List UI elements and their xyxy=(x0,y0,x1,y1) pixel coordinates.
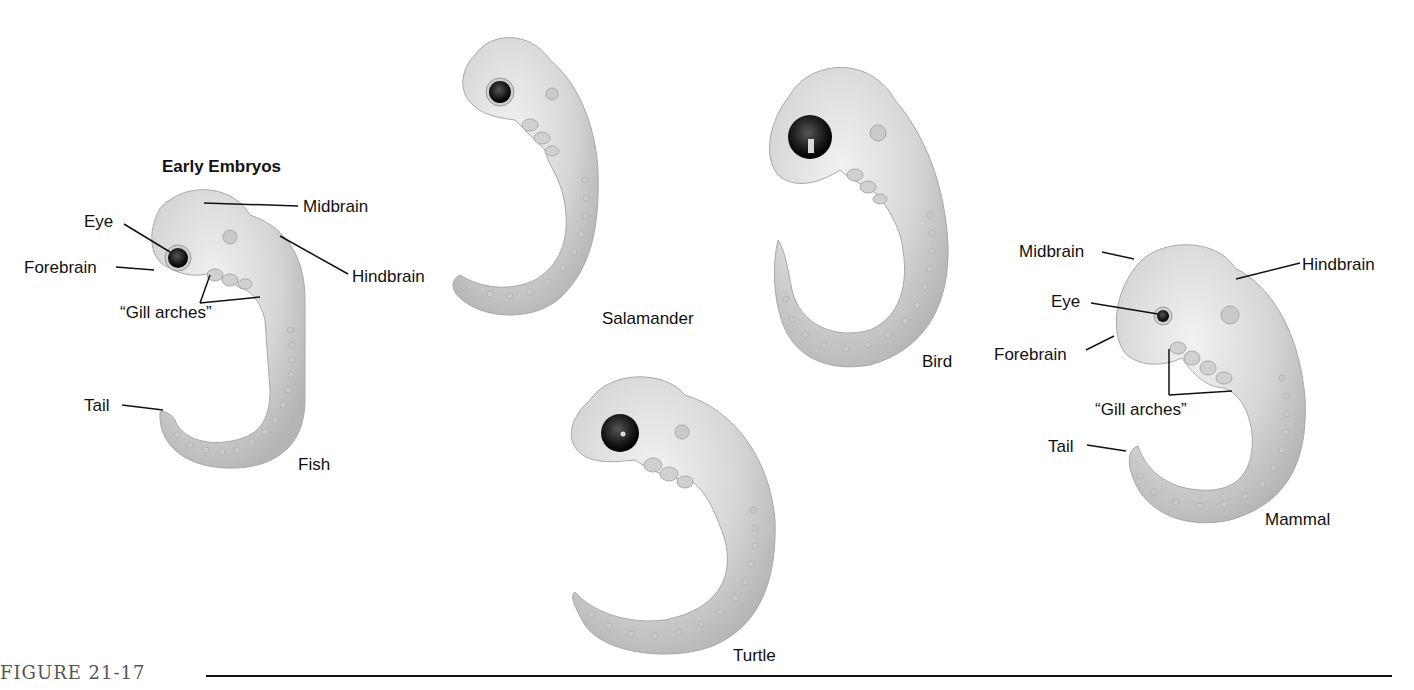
mammal-tail-label: Tail xyxy=(1048,438,1074,455)
figure-caption: FIGURE 21-17 xyxy=(0,664,145,682)
embryo-comparison-figure: Early Embryos Eye Forebrain Midbrain xyxy=(0,0,1414,690)
mammal-leader-lines xyxy=(0,0,1414,690)
mammal-name-label: Mammal xyxy=(1265,511,1330,528)
caption-rule xyxy=(206,675,1392,677)
mammal-midbrain-label: Midbrain xyxy=(1019,243,1084,260)
mammal-hindbrain-label: Hindbrain xyxy=(1302,256,1375,273)
mammal-eye-label: Eye xyxy=(1051,293,1080,310)
mammal-forebrain-label: Forebrain xyxy=(994,346,1067,363)
mammal-gill-arches-label: “Gill arches” xyxy=(1095,401,1187,418)
